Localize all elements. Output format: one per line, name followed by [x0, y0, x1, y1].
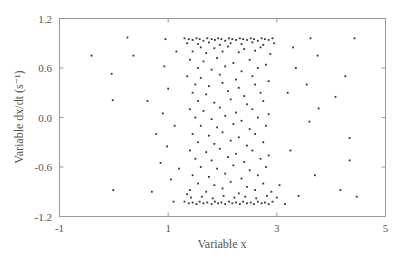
data-point — [222, 82, 224, 84]
data-point — [262, 183, 264, 185]
data-point — [174, 125, 176, 127]
data-point — [241, 43, 243, 45]
data-point — [230, 42, 232, 44]
data-point — [235, 39, 237, 41]
data-point — [295, 67, 297, 69]
data-point — [211, 69, 213, 71]
data-point — [192, 202, 194, 204]
data-point — [261, 202, 263, 204]
data-point — [276, 197, 278, 199]
data-point — [217, 202, 219, 204]
data-point — [205, 52, 207, 54]
data-point — [254, 84, 256, 86]
data-point — [199, 38, 201, 40]
data-point — [213, 102, 215, 104]
data-point — [241, 178, 243, 180]
data-point — [205, 151, 207, 153]
data-point — [197, 43, 199, 45]
data-point — [196, 37, 198, 39]
data-point — [197, 141, 199, 143]
data-point — [200, 46, 202, 48]
data-point — [224, 203, 226, 205]
data-point — [246, 202, 248, 204]
data-point — [170, 178, 172, 180]
data-point — [261, 37, 263, 39]
data-point — [175, 51, 177, 53]
data-point — [284, 203, 286, 205]
data-point — [257, 201, 259, 203]
data-point — [188, 38, 190, 40]
x-tick-label: -1 — [55, 222, 64, 234]
data-point — [264, 202, 266, 204]
data-point — [268, 155, 270, 157]
data-point — [335, 96, 337, 98]
data-point — [238, 51, 240, 53]
data-point — [287, 92, 289, 94]
data-point — [235, 153, 237, 155]
data-point — [251, 150, 253, 152]
data-point — [251, 75, 253, 77]
data-point — [230, 140, 232, 142]
data-point — [132, 55, 134, 57]
data-point — [186, 75, 188, 77]
data-point — [212, 197, 214, 199]
data-point — [211, 203, 213, 205]
data-point — [166, 145, 168, 147]
data-point — [224, 173, 226, 175]
data-point — [298, 195, 300, 197]
data-point — [188, 202, 190, 204]
data-point — [186, 193, 188, 195]
data-point — [290, 150, 292, 152]
scatter-chart: -1135 1.20.60.0-0.6-1.2 Variable x Varia… — [0, 0, 402, 258]
plot-frame — [60, 19, 386, 217]
y-tick-label: 0.6 — [38, 62, 52, 74]
data-point — [216, 57, 218, 59]
data-point — [211, 38, 213, 40]
data-point — [260, 46, 262, 48]
data-point — [255, 197, 257, 199]
data-point — [219, 107, 221, 109]
data-point — [292, 46, 294, 48]
data-point — [234, 197, 236, 199]
data-point — [189, 108, 191, 110]
data-point — [227, 46, 229, 48]
data-point — [192, 92, 194, 94]
data-point — [254, 50, 256, 52]
x-tick-label: 5 — [383, 222, 389, 234]
data-point — [160, 162, 162, 164]
data-point — [224, 115, 226, 117]
data-point — [349, 160, 351, 162]
data-point — [197, 100, 199, 102]
data-point — [235, 112, 237, 114]
data-point — [246, 145, 248, 147]
data-point — [264, 38, 266, 40]
data-point — [241, 120, 243, 122]
data-point — [167, 88, 169, 90]
data-point — [265, 125, 267, 127]
data-point — [194, 117, 196, 119]
data-point — [268, 113, 270, 115]
data-point — [227, 90, 229, 92]
data-point — [243, 161, 245, 163]
data-point — [262, 141, 264, 143]
data-point — [111, 73, 113, 75]
data-point — [241, 70, 243, 72]
data-point — [268, 203, 270, 205]
data-point — [268, 80, 270, 82]
data-point — [194, 158, 196, 160]
data-point — [213, 47, 215, 49]
data-point — [214, 201, 216, 203]
data-point — [251, 108, 253, 110]
data-point — [249, 59, 251, 61]
data-point — [91, 55, 93, 57]
data-point — [211, 118, 213, 120]
data-point — [190, 197, 192, 199]
data-point — [223, 195, 225, 197]
data-point — [239, 203, 241, 205]
data-point — [224, 65, 226, 67]
data-point — [309, 121, 311, 123]
data-point — [246, 186, 248, 188]
data-point — [217, 37, 219, 39]
data-point — [203, 40, 205, 42]
data-point — [265, 64, 267, 66]
